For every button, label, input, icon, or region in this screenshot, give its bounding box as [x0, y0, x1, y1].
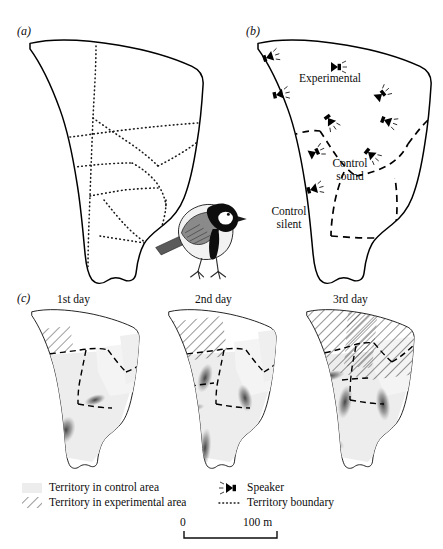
territory-boundaries-dotted [30, 46, 212, 268]
territory-boundaries-dashed [30, 349, 152, 409]
panel-c-day1-graphics [30, 310, 152, 469]
area-label-control-sound: Control sound [321, 157, 379, 183]
panel-c-day2-graphics [167, 310, 290, 469]
day-label-2: 2nd day [195, 293, 232, 305]
panel-letter-a: (a) [17, 24, 31, 39]
scale-label-start: 0 [180, 516, 186, 528]
legend-label-territory-boundary: Territory boundary [247, 496, 334, 508]
great-tit-bird-illustration [156, 203, 247, 278]
experimental-hatch-fill [32, 326, 74, 356]
panel-letter-c: (c) [17, 291, 30, 306]
day-label-1: 1st day [57, 293, 90, 305]
panel-letter-b: (b) [246, 24, 260, 39]
figure-root: (a) (b) (c) Experimental Control sound C… [0, 0, 443, 549]
experimental-hatch-fill [305, 308, 436, 380]
scale-label-end: 100 m [243, 516, 272, 528]
territory-boundaries-dashed [167, 348, 290, 408]
control-area-fill [167, 350, 268, 462]
panel-a-graphics [30, 40, 212, 283]
figure-graphics [0, 0, 443, 549]
speaker-icon [306, 181, 326, 197]
day-label-3: 3rd day [333, 293, 368, 305]
legend-label-experimental-area: Territory in experimental area [49, 496, 186, 508]
speaker-icon [373, 84, 393, 103]
control-area-fill [305, 350, 406, 462]
territory-boundaries-dashed [305, 338, 420, 412]
experimental-hatch-fill [169, 316, 228, 362]
legend-swatch-control-fill [22, 483, 42, 493]
area-label-experimental: Experimental [288, 72, 372, 85]
legend-swatch-hatch [22, 497, 42, 508]
panel-c-day3-graphics [305, 308, 436, 468]
speaker-icon [261, 48, 281, 65]
speaker-icon [321, 112, 341, 133]
speaker-icon [379, 113, 399, 130]
scale-bar [184, 531, 277, 538]
control-area-fill [30, 350, 130, 462]
speaker-icon [272, 86, 291, 101]
area-label-control-silent: Control silent [260, 205, 318, 231]
legend-label-speaker: Speaker [247, 481, 284, 493]
legend-swatch-speaker-icon [219, 482, 236, 494]
legend-label-control-area: Territory in control area [49, 481, 159, 493]
